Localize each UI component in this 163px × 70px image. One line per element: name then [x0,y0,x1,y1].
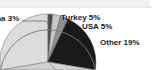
pie-chart-graphic [0,0,163,70]
pie-label-china: ina 3% [0,14,19,23]
pie-label-other: Other 19% [100,38,140,47]
pie-chart-screenshot: ina 3% Turkey 5% USA 5% Other 19% [0,0,163,70]
pie-label-turkey: Turkey 5% [61,13,100,22]
pie-label-usa: USA 5% [82,22,112,31]
pie-chart: ina 3% Turkey 5% USA 5% Other 19% [0,0,163,70]
